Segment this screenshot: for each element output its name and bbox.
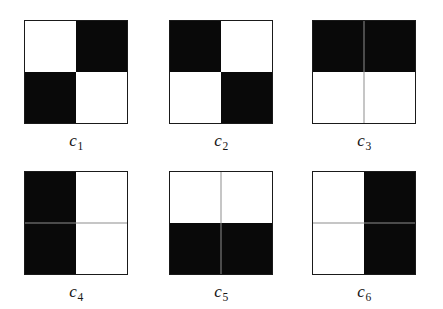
quadrant-c5-top-left bbox=[170, 172, 221, 223]
pattern-cell-c2: c2 bbox=[169, 20, 273, 149]
pattern-square-c6 bbox=[312, 171, 416, 275]
pattern-label-letter-c4: c bbox=[69, 282, 77, 301]
pattern-label-index-c2: 2 bbox=[222, 140, 228, 153]
pattern-figure: c1c2c3c4c5c6 bbox=[0, 0, 443, 309]
pattern-cell-c4: c4 bbox=[24, 171, 128, 300]
pattern-label-c1: c1 bbox=[69, 132, 83, 149]
pattern-cell-c5: c5 bbox=[169, 171, 273, 300]
pattern-label-letter-c2: c bbox=[214, 131, 222, 150]
quadrant-c3-bottom-left bbox=[313, 72, 364, 123]
pattern-cell-c3: c3 bbox=[312, 20, 416, 149]
quadrant-c1-top-right bbox=[76, 21, 127, 72]
quadrant-c3-bottom-right bbox=[364, 72, 415, 123]
pattern-label-letter-c6: c bbox=[357, 282, 365, 301]
pattern-label-letter-c1: c bbox=[69, 131, 77, 150]
quadrant-c2-top-left bbox=[170, 21, 221, 72]
quadrant-c1-top-left bbox=[25, 21, 76, 72]
quadrant-c3-top-right bbox=[364, 21, 415, 72]
pattern-label-c4: c4 bbox=[69, 283, 83, 300]
pattern-label-c6: c6 bbox=[357, 283, 371, 300]
pattern-label-c3: c3 bbox=[357, 132, 371, 149]
quadrant-c6-top-right bbox=[364, 172, 415, 223]
quadrant-c2-top-right bbox=[221, 21, 272, 72]
pattern-label-letter-c5: c bbox=[214, 282, 222, 301]
pattern-cell-c6: c6 bbox=[312, 171, 416, 300]
pattern-label-index-c1: 1 bbox=[77, 140, 83, 153]
pattern-label-index-c6: 6 bbox=[365, 291, 371, 304]
pattern-square-c4 bbox=[24, 171, 128, 275]
quadrant-c6-bottom-left bbox=[313, 223, 364, 274]
quadrant-c5-bottom-right bbox=[221, 223, 272, 274]
quadrant-c2-bottom-right bbox=[221, 72, 272, 123]
pattern-square-c3 bbox=[312, 20, 416, 124]
pattern-label-c2: c2 bbox=[214, 132, 228, 149]
quadrant-c5-top-right bbox=[221, 172, 272, 223]
quadrant-c6-bottom-right bbox=[364, 223, 415, 274]
quadrant-c1-bottom-right bbox=[76, 72, 127, 123]
quadrant-c3-top-left bbox=[313, 21, 364, 72]
quadrant-c5-bottom-left bbox=[170, 223, 221, 274]
quadrant-c6-top-left bbox=[313, 172, 364, 223]
pattern-label-index-c4: 4 bbox=[77, 291, 83, 304]
pattern-label-letter-c3: c bbox=[357, 131, 365, 150]
pattern-label-index-c3: 3 bbox=[365, 140, 371, 153]
quadrant-c2-bottom-left bbox=[170, 72, 221, 123]
quadrant-c4-bottom-right bbox=[76, 223, 127, 274]
pattern-square-c1 bbox=[24, 20, 128, 124]
pattern-square-c5 bbox=[169, 171, 273, 275]
pattern-cell-c1: c1 bbox=[24, 20, 128, 149]
pattern-label-index-c5: 5 bbox=[222, 291, 228, 304]
quadrant-c1-bottom-left bbox=[25, 72, 76, 123]
pattern-square-c2 bbox=[169, 20, 273, 124]
pattern-label-c5: c5 bbox=[214, 283, 228, 300]
quadrant-c4-top-right bbox=[76, 172, 127, 223]
quadrant-c4-top-left bbox=[25, 172, 76, 223]
quadrant-c4-bottom-left bbox=[25, 223, 76, 274]
